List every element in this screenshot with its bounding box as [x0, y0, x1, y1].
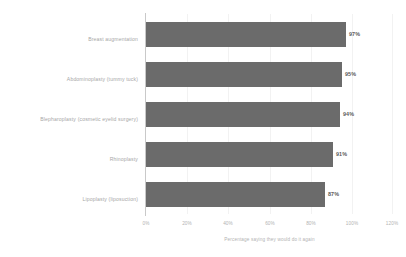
- bar: [146, 102, 340, 127]
- x-tick-label: 100%: [346, 221, 358, 227]
- category-label: Rhinoplasty: [0, 156, 138, 162]
- bar: [146, 62, 342, 87]
- bar: [146, 22, 346, 47]
- x-tick-label: 120%: [386, 221, 398, 227]
- category-label: Blepharoplasty (cosmetic eyelid surgery): [0, 116, 138, 122]
- bar: [146, 142, 333, 167]
- x-tick-label: 0%: [143, 221, 150, 227]
- x-axis-title: Percentage saying they would do it again: [146, 237, 393, 243]
- bar-value-label: 97%: [349, 31, 360, 37]
- x-tick-label: 60%: [265, 221, 275, 227]
- value-axis-line: [145, 13, 146, 216]
- bar: [146, 182, 325, 207]
- x-tick-label: 80%: [306, 221, 316, 227]
- gridline: [392, 14, 393, 214]
- bar-value-label: 87%: [328, 191, 339, 197]
- category-axis-labels: Breast augmentation Abdominoplasty (tumm…: [0, 14, 142, 214]
- x-tick-label: 40%: [223, 221, 233, 227]
- bar-chart: Breast augmentation Abdominoplasty (tumm…: [0, 0, 406, 257]
- x-tick-label: 20%: [182, 221, 192, 227]
- bar-value-label: 91%: [336, 151, 347, 157]
- plot-area: 97% 95% 94% 91% 87%: [146, 14, 393, 214]
- category-label: Lipoplasty (liposuction): [0, 196, 138, 202]
- bar-value-label: 94%: [343, 111, 354, 117]
- category-label: Abdominoplasty (tummy tuck): [0, 76, 138, 82]
- bar-value-label: 95%: [345, 71, 356, 77]
- category-label: Breast augmentation: [0, 36, 138, 42]
